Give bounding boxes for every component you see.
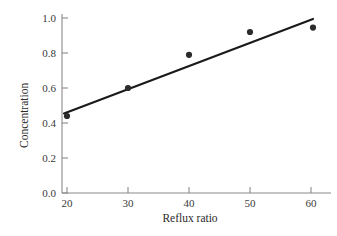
x-axis-title: Reflux ratio: [120, 213, 260, 225]
y-tick-label-0.0: 0.0: [28, 188, 56, 199]
y-tick-label-0.2: 0.2: [28, 153, 56, 164]
x-tick-label-60: 60: [297, 198, 325, 209]
x-tick-label-30: 30: [114, 198, 142, 209]
y-axis-title: Concentration: [19, 83, 31, 148]
y-tick-label-0.8: 0.8: [28, 48, 56, 59]
trend-line-segment: [64, 19, 313, 114]
data-point-markers: [64, 25, 316, 120]
y-tick-label-0.6: 0.6: [28, 83, 56, 94]
data-point-1: [64, 113, 70, 119]
data-point-5: [310, 25, 316, 31]
y-axis-ticks: [62, 18, 68, 193]
x-tick-label-50: 50: [236, 198, 264, 209]
x-tick-label-20: 20: [53, 198, 81, 209]
y-tick-label-1.0: 1.0: [28, 13, 56, 24]
fitted-trend-line: [64, 19, 313, 114]
chart-figure: 1.0 0.8 0.6 0.4 0.2 0.0 20 30 40 50 60 R…: [0, 0, 337, 236]
y-tick-label-0.4: 0.4: [28, 118, 56, 129]
axes: [62, 14, 331, 193]
data-point-2: [125, 85, 131, 91]
x-tick-label-40: 40: [175, 198, 203, 209]
data-point-4: [247, 29, 253, 35]
data-point-3: [186, 52, 192, 58]
x-axis-ticks: [67, 187, 311, 193]
